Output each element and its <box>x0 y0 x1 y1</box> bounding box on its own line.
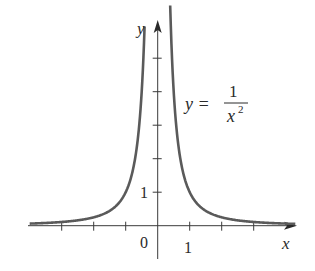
curve-branch <box>30 26 145 223</box>
function-annotation: y = 1 x 2 <box>183 82 248 126</box>
x-axis-label: x <box>281 234 290 253</box>
annotation-lhs: y = <box>183 94 210 114</box>
y-axis-label: y <box>135 19 145 38</box>
y-axis <box>153 20 162 259</box>
function-curve <box>30 5 296 223</box>
y-tick-label-1: 1 <box>140 184 148 201</box>
origin-label: 0 <box>140 234 148 251</box>
annotation-y: y = <box>183 94 210 114</box>
annotation-numerator: 1 <box>229 82 238 101</box>
annotation-denominator-base: x <box>226 106 235 126</box>
x-tick-label-1: 1 <box>184 239 192 256</box>
chart-graph: y x 0 1 1 y = 1 x 2 <box>0 0 315 271</box>
annotation-denominator-exponent: 2 <box>238 103 244 115</box>
